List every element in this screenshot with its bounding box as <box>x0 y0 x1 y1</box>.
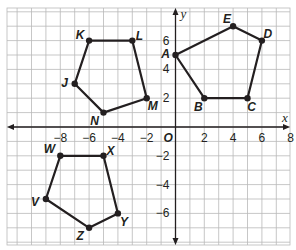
vertex-point <box>129 37 135 43</box>
x-tick-label: 6 <box>259 131 266 145</box>
y-tick-label: 4 <box>163 62 170 76</box>
x-tick-label: −8 <box>53 131 67 145</box>
vertex-label-y: Y <box>120 215 129 229</box>
x-tick-label: −2 <box>140 131 154 145</box>
vertex-label-k: K <box>76 28 86 42</box>
x-tick-label: 8 <box>287 131 294 145</box>
vertex-point <box>172 52 178 58</box>
vertex-label-n: N <box>90 114 99 128</box>
coordinate-plane: xyO−8−6−4−22468−6−4−2246 ABCDEJKLMNVWXYZ <box>0 0 296 250</box>
vertex-point <box>100 109 106 115</box>
y-tick-label: −4 <box>156 178 170 192</box>
vertex-label-x: X <box>105 144 115 158</box>
vertex-point <box>86 37 92 43</box>
vertex-label-w: W <box>44 142 57 156</box>
vertex-label-c: C <box>247 100 256 114</box>
y-tick-label: −2 <box>156 149 170 163</box>
vertex-label-j: J <box>61 76 68 90</box>
vertex-point <box>43 196 49 202</box>
x-tick-label: 2 <box>201 131 208 145</box>
vertex-label-d: D <box>264 27 273 41</box>
vertex-label-b: B <box>194 100 203 114</box>
x-axis-label: x <box>281 110 288 125</box>
vertex-label-l: L <box>136 29 143 43</box>
vertex-point <box>72 81 78 87</box>
x-tick-label: 4 <box>230 131 237 145</box>
x-tick-label: −6 <box>82 131 96 145</box>
y-tick-label: −6 <box>156 206 170 220</box>
vertex-point <box>57 153 63 159</box>
y-axis-label: y <box>179 6 187 21</box>
vertex-label-e: E <box>223 12 232 26</box>
vertex-point <box>86 225 92 231</box>
vertex-label-a: A <box>160 47 170 61</box>
vertex-label-z: Z <box>75 229 84 243</box>
x-tick-label: −4 <box>111 131 125 145</box>
vertex-label-m: M <box>148 99 159 113</box>
vertex-label-v: V <box>31 195 40 209</box>
y-tick-label: 2 <box>163 91 170 105</box>
origin-label: O <box>164 131 174 145</box>
y-tick-label: 6 <box>163 34 170 48</box>
